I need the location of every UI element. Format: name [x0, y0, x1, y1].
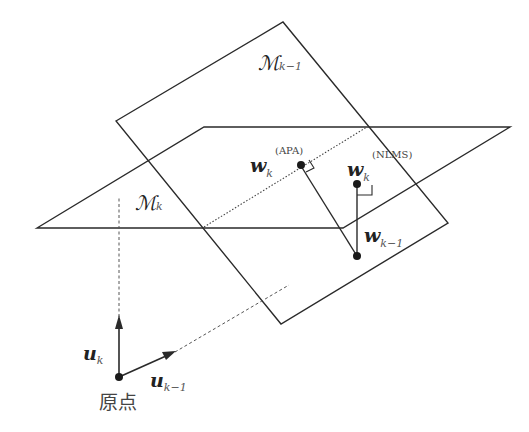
vector-symbol: w [347, 158, 363, 180]
point-origin [115, 373, 123, 381]
vector-symbol: u [150, 369, 164, 391]
label-u-k-minus-1: uk−1 [150, 371, 187, 390]
vector-symbol: w [364, 224, 380, 246]
u-k-minus-1-arrowhead-icon [162, 351, 176, 360]
label-w-apa: wk [250, 156, 273, 175]
plane-symbol: ℳ [135, 191, 156, 215]
vector-subscript: k [266, 167, 273, 180]
label-m-k-minus-1: ℳk−1 [258, 53, 302, 73]
plane-symbol: ℳ [258, 51, 279, 75]
label-m-k: ℳk [135, 193, 163, 213]
u-k-arrowhead-icon [115, 315, 123, 329]
vector-subscript: k [97, 354, 104, 367]
vector-symbol: u [83, 342, 97, 364]
vector-symbol: w [250, 154, 266, 176]
vector-subscript: k−1 [164, 381, 187, 394]
label-w-nlms: wk [347, 160, 370, 179]
plane-subscript: k−1 [279, 60, 302, 73]
label-origin: 原点 [99, 393, 137, 412]
point-w-prev [353, 252, 361, 260]
point-w-apa [297, 161, 305, 169]
label-u-k: uk [83, 344, 104, 363]
label-w-nlms-superscript: (NLMS) [372, 150, 412, 160]
label-w-apa-superscript: (APA) [275, 146, 303, 156]
intersection-line [204, 127, 367, 227]
u-k-minus-1-extension [175, 285, 289, 352]
point-w-nlms [353, 180, 361, 188]
vector-subscript: k−1 [380, 237, 403, 250]
plane-subscript: k [156, 200, 163, 213]
apa-right-angle-icon [306, 160, 314, 172]
label-w-prev: wk−1 [364, 226, 403, 245]
vector-subscript: k [363, 171, 370, 184]
